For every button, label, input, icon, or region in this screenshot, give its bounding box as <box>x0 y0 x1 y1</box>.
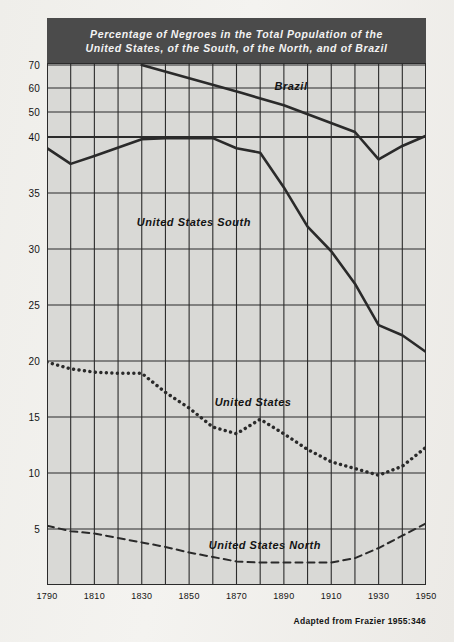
x-axis-tick-1910: 1910 <box>306 591 356 601</box>
y-axis-tick-40: 40 <box>8 132 40 143</box>
series-label-united-states-north: United States North <box>209 539 321 551</box>
x-axis-tick-1850: 1850 <box>164 591 214 601</box>
x-axis-tick-1890: 1890 <box>259 591 309 601</box>
x-axis-tick-1830: 1830 <box>117 591 167 601</box>
y-axis-tick-5: 5 <box>8 524 40 535</box>
y-axis-tick-15: 15 <box>8 412 40 423</box>
chart-svg <box>47 63 426 585</box>
chart-title-bar: Percentage of Negroes in the Total Popul… <box>47 18 426 63</box>
series-label-brazil: Brazil <box>274 80 307 92</box>
x-axis-tick-1930: 1930 <box>354 591 404 601</box>
x-axis-tick-1790: 1790 <box>22 591 72 601</box>
figure-canvas: Percentage of Negroes in the Total Popul… <box>0 0 454 642</box>
source-credit: Adapted from Frazier 1955:346 <box>294 616 426 626</box>
x-axis-tick-1810: 1810 <box>69 591 119 601</box>
series-label-united-states: United States <box>215 396 292 408</box>
y-axis-tick-35: 35 <box>8 188 40 199</box>
chart-title-line-2: United States, of the South, of the Nort… <box>86 41 388 55</box>
y-axis-tick-50: 50 <box>8 107 40 118</box>
chart-title-line-1: Percentage of Negroes in the Total Popul… <box>86 27 388 41</box>
x-axis-tick-1950: 1950 <box>401 591 451 601</box>
y-axis-tick-25: 25 <box>8 300 40 311</box>
y-axis-tick-20: 20 <box>8 356 40 367</box>
plot-area <box>47 63 426 585</box>
y-axis-tick-70: 70 <box>8 60 40 71</box>
y-axis-tick-30: 30 <box>8 244 40 255</box>
y-axis-tick-10: 10 <box>8 468 40 479</box>
x-axis-tick-1870: 1870 <box>212 591 262 601</box>
series-label-united-states-south: United States South <box>137 216 251 228</box>
y-axis-tick-60: 60 <box>8 83 40 94</box>
